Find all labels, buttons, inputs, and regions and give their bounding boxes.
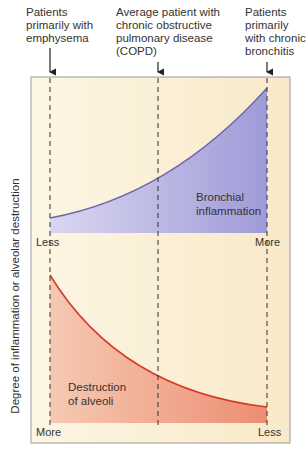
arrow-icons — [50, 48, 267, 72]
diagram-canvas — [0, 0, 308, 449]
top-left-tick: Less — [36, 236, 59, 248]
area-label-line: Bronchial — [196, 190, 261, 204]
top-right-tick: More — [255, 236, 280, 248]
area-label-line: inflammation — [196, 204, 261, 218]
bronchial-inflammation-label: Bronchial inflammation — [196, 190, 261, 218]
area-label-line: of alveoli — [68, 394, 126, 408]
alveoli-destruction-label: Destruction of alveoli — [68, 380, 126, 408]
bottom-right-tick: Less — [258, 426, 281, 438]
bottom-left-tick: More — [36, 426, 61, 438]
area-label-line: Destruction — [68, 380, 126, 394]
y-axis-label: Degree of inflammation or alveolar destr… — [9, 146, 21, 446]
